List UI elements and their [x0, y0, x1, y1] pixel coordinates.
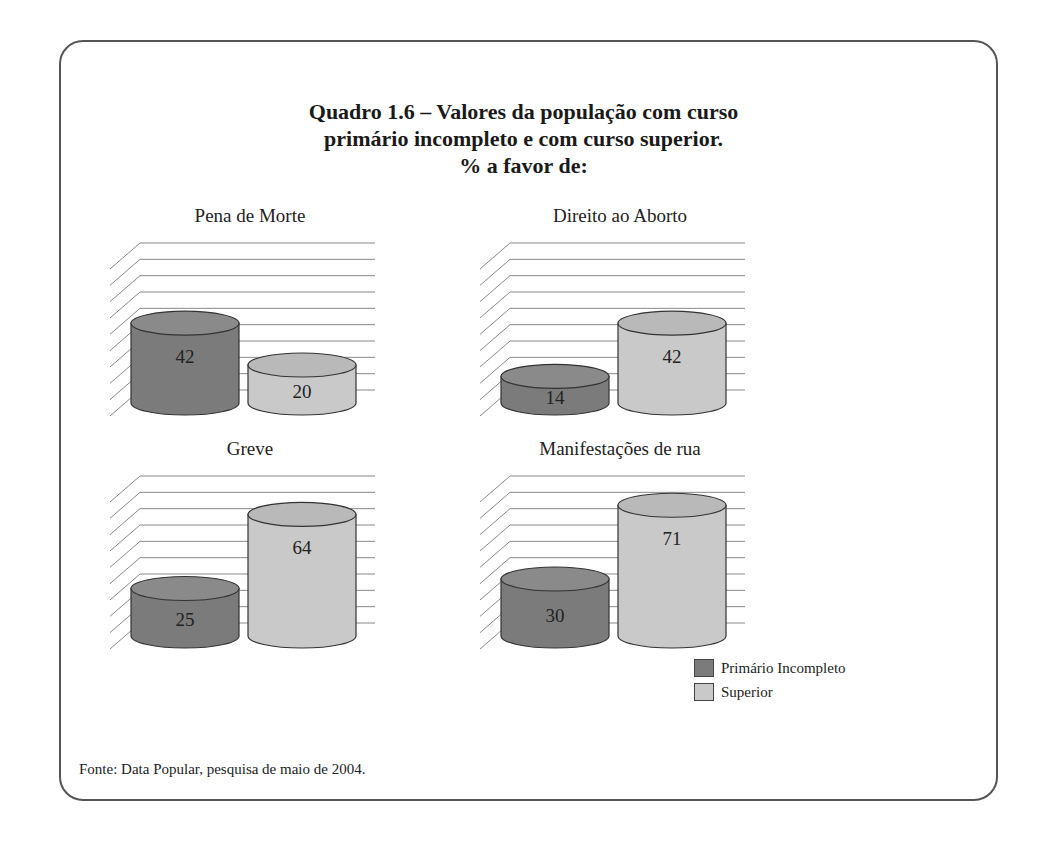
- value-label: 42: [663, 346, 682, 367]
- panel-title: Pena de Morte: [110, 205, 390, 227]
- cylinder-primario: 42: [131, 311, 239, 415]
- cylinder-superior: 64: [248, 502, 356, 648]
- value-label: 25: [176, 609, 195, 630]
- panel-title: Greve: [110, 438, 390, 460]
- value-label: 64: [293, 537, 313, 558]
- cylinder-chart: 4220: [110, 235, 390, 420]
- title-line-2: primário incompleto e com curso superior…: [0, 125, 1047, 152]
- legend-item-superior: Superior: [694, 680, 846, 704]
- value-label: 30: [546, 605, 565, 626]
- legend-swatch-superior: [694, 683, 714, 701]
- cylinder-superior: 42: [618, 311, 726, 415]
- title-line-3: % a favor de:: [0, 152, 1047, 179]
- value-label: 42: [176, 346, 195, 367]
- cylinder-chart: 3071: [480, 468, 760, 653]
- value-label: 71: [663, 528, 682, 549]
- panel-direito-ao-aborto: Direito ao Aborto 1442: [480, 205, 760, 420]
- value-label: 14: [546, 387, 566, 408]
- legend-item-primario: Primário Incompleto: [694, 656, 846, 680]
- cylinder-primario: 30: [501, 567, 609, 648]
- panel-pena-de-morte: Pena de Morte 4220: [110, 205, 390, 420]
- legend: Primário Incompleto Superior: [694, 656, 846, 704]
- legend-label: Superior: [721, 684, 773, 701]
- value-label: 20: [293, 381, 312, 402]
- cylinder-chart: 1442: [480, 235, 760, 420]
- cylinder-primario: 25: [131, 577, 239, 649]
- panel-title: Manifestações de rua: [480, 438, 760, 460]
- legend-label: Primário Incompleto: [721, 660, 846, 677]
- legend-swatch-primario: [694, 659, 714, 677]
- cylinder-superior: 71: [618, 493, 726, 648]
- cylinder-primario: 14: [501, 364, 609, 415]
- chart-title: Quadro 1.6 – Valores da população com cu…: [0, 98, 1047, 179]
- panel-manifestacoes-de-rua: Manifestações de rua 3071: [480, 438, 760, 653]
- source-note: Fonte: Data Popular, pesquisa de maio de…: [79, 761, 365, 778]
- panel-title: Direito ao Aborto: [480, 205, 760, 227]
- panel-greve: Greve 2564: [110, 438, 390, 653]
- title-line-1: Quadro 1.6 – Valores da população com cu…: [0, 98, 1047, 125]
- cylinder-chart: 2564: [110, 468, 390, 653]
- cylinder-superior: 20: [248, 353, 356, 415]
